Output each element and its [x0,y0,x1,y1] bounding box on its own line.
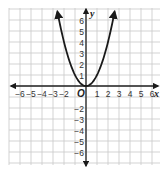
y-tick-label: −3 [74,115,84,125]
x-tick-label: −4 [37,89,47,99]
origin-label: O [77,88,85,99]
y-tick-label: −6 [74,148,84,158]
y-tick-label: 4 [79,38,84,48]
x-tick-label: −3 [48,89,58,99]
y-tick-label: −2 [74,104,84,114]
y-tick-label: 5 [79,27,84,37]
y-tick-label: 1 [79,71,84,81]
x-axis-label: x [153,88,159,99]
x-tick-label: −5 [26,89,36,99]
y-tick-label: 3 [79,49,84,59]
y-axis-label: y [89,8,95,19]
x-tick-label: 3 [117,89,122,99]
x-tick-label: 1 [95,89,100,99]
x-tick-label: −6 [15,89,25,99]
coordinate-plane-graph: −6−5−4−3−2123456−6−5−4−3−2123456 x y O [0,0,164,175]
x-tick-label: −2 [59,89,69,99]
y-tick-label: 2 [79,60,84,70]
y-tick-label: −5 [74,137,84,147]
x-tick-label: 4 [128,89,133,99]
y-tick-label: −4 [74,126,84,136]
y-tick-label: 6 [79,16,84,26]
x-tick-label: 2 [106,89,111,99]
x-tick-label: 5 [139,89,144,99]
